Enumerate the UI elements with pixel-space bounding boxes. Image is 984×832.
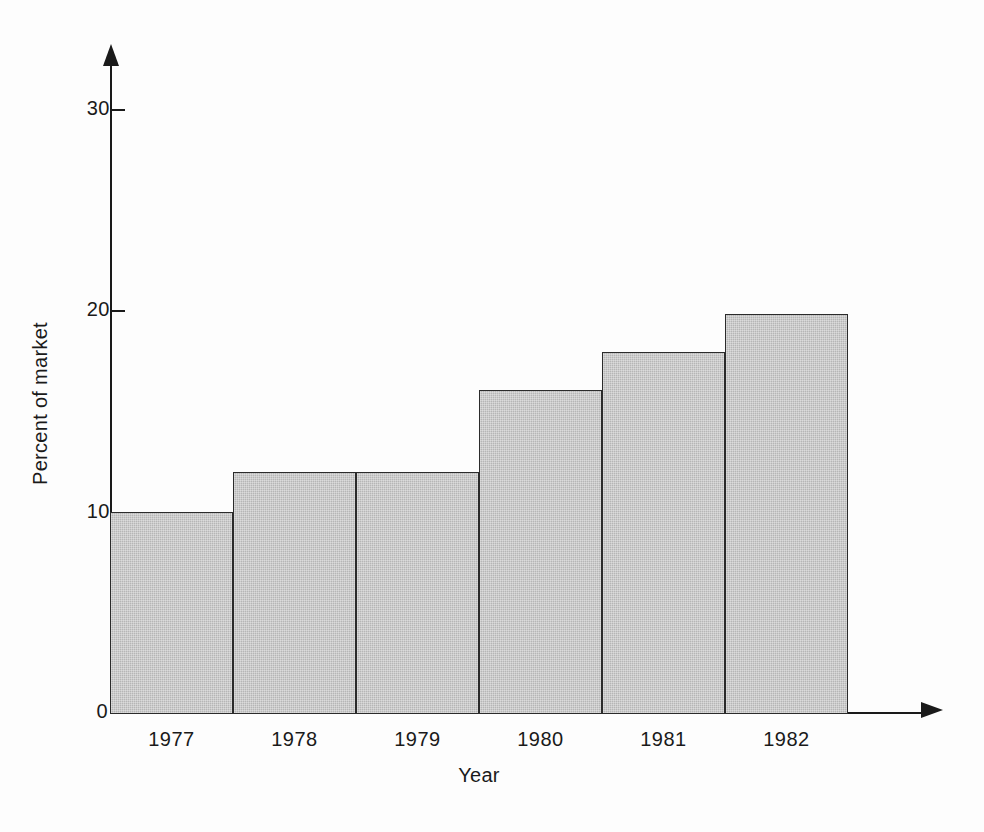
y-tick-mark-30 bbox=[112, 109, 125, 111]
x-tick-label-1981: 1981 bbox=[602, 728, 725, 751]
y-tick-mark-20 bbox=[112, 310, 125, 312]
x-tick-label-1980: 1980 bbox=[479, 728, 602, 751]
y-tick-label-0: 0 bbox=[16, 700, 108, 723]
bar-1981 bbox=[602, 352, 725, 714]
x-axis-arrow-icon bbox=[921, 702, 943, 718]
bar-1980 bbox=[479, 390, 602, 714]
x-axis-title: Year bbox=[110, 764, 848, 787]
x-tick-label-1978: 1978 bbox=[233, 728, 356, 751]
x-tick-label-1982: 1982 bbox=[725, 728, 848, 751]
x-tick-label-1977: 1977 bbox=[110, 728, 233, 751]
y-axis-arrow-icon bbox=[103, 44, 119, 66]
bar-chart-plot: 30 20 10 0 1977 1978 1979 1980 1981 1982… bbox=[0, 0, 984, 832]
bar-1978 bbox=[233, 472, 356, 714]
bar-1977 bbox=[110, 512, 233, 714]
x-tick-label-1979: 1979 bbox=[356, 728, 479, 751]
bar-1979 bbox=[356, 472, 479, 714]
bar-1982 bbox=[725, 314, 848, 714]
y-tick-label-30: 30 bbox=[20, 97, 110, 120]
y-axis-title: Percent of market bbox=[29, 304, 52, 504]
chart-page: 30 20 10 0 1977 1978 1979 1980 1981 1982… bbox=[0, 0, 984, 832]
